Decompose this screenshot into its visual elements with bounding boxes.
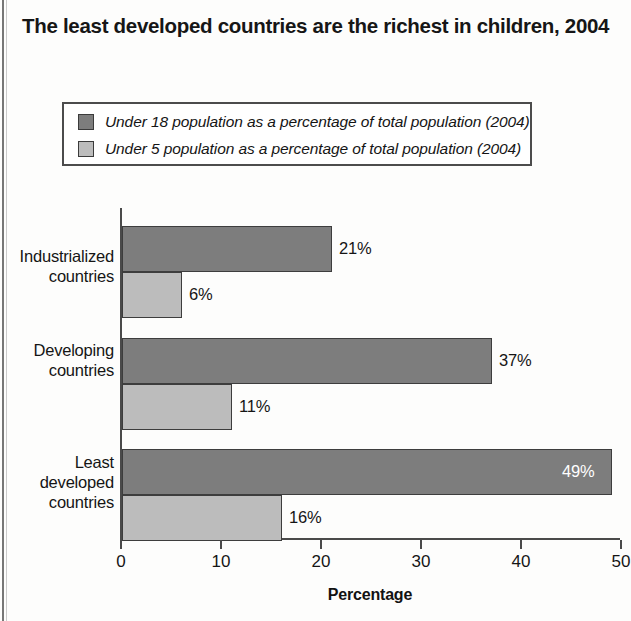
bar-18-developing-countries: [122, 338, 492, 384]
category-label-least-developed: Least developed countries: [2, 452, 114, 512]
category-label-line: countries: [2, 266, 114, 286]
bar-18-least-developed-countries: [122, 449, 612, 495]
bar-value-label: 49%: [562, 462, 594, 481]
bar-18-industrialized-countries: [122, 226, 332, 272]
legend-swatch-under-5: [78, 141, 94, 157]
x-tick-label: 30: [412, 552, 431, 572]
category-label-line: Industrialized: [2, 246, 114, 266]
bar-value-label: 37%: [499, 351, 531, 370]
legend-item-under-5: Under 5 population as a percentage of to…: [78, 137, 521, 161]
x-tick-label: 50: [612, 552, 631, 572]
bar-5-least-developed-countries: [122, 495, 282, 541]
bar-value-label: 11%: [239, 397, 270, 416]
x-axis-title: Percentage: [120, 586, 620, 604]
chart-legend: Under 18 population as a percentage of t…: [62, 102, 532, 166]
bar-value-label: 21%: [339, 239, 371, 258]
category-label-line: developed: [2, 472, 114, 492]
bar-5-industrialized-countries: [122, 272, 182, 318]
category-label-developing: Developing countries: [2, 340, 114, 380]
bar-5-developing-countries: [122, 384, 232, 430]
category-label-industrialized: Industrialized countries: [2, 246, 114, 286]
chart-page: The least developed countries are the ri…: [0, 0, 631, 621]
x-tick-mark: [620, 540, 622, 549]
plot-area: 21%6%37%11%49%16% 01020304050 Percentage: [120, 208, 620, 538]
category-label-line: Developing: [2, 340, 114, 360]
x-tick-mark: [420, 540, 422, 549]
x-tick-label: 40: [512, 552, 531, 572]
legend-swatch-under-18: [78, 114, 94, 130]
x-tick-label: 20: [312, 552, 331, 572]
page-title: The least developed countries are the ri…: [22, 14, 622, 38]
x-tick-label: 0: [116, 552, 125, 572]
legend-item-under-18: Under 18 population as a percentage of t…: [78, 110, 530, 134]
scan-edge-artifact: [2, 0, 4, 621]
category-label-line: Least: [2, 452, 114, 472]
bar-value-label: 6%: [189, 285, 212, 304]
x-tick-mark: [320, 540, 322, 549]
x-tick-mark: [520, 540, 522, 549]
category-label-line: countries: [2, 492, 114, 512]
x-tick-mark: [120, 540, 122, 549]
bar-value-label: 16%: [289, 508, 321, 527]
legend-label-under-5: Under 5 population as a percentage of to…: [105, 140, 521, 158]
category-label-line: countries: [2, 360, 114, 380]
legend-label-under-18: Under 18 population as a percentage of t…: [105, 113, 530, 131]
scan-edge-artifact-secondary: [6, 0, 7, 621]
x-tick-label: 10: [212, 552, 231, 572]
x-tick-mark: [220, 540, 222, 549]
